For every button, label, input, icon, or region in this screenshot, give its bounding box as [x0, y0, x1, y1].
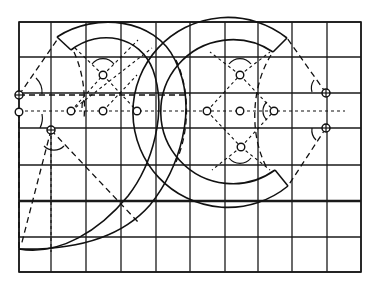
dotted-guide-diagonal	[240, 52, 270, 75]
angle-arc-mark	[92, 59, 114, 64]
letterforms	[19, 17, 288, 250]
angle-arc-mark	[44, 146, 64, 150]
dotted-guide-diagonal	[75, 48, 103, 75]
angle-arc-mark	[229, 59, 251, 64]
angle-arc-mark	[36, 78, 42, 94]
angle-arc-mark	[82, 100, 84, 108]
angle-arc-mark	[311, 80, 314, 92]
open-point-icon	[99, 71, 107, 79]
open-point-icon	[99, 107, 107, 115]
square-grid	[19, 22, 361, 272]
angle-arc-mark	[229, 158, 251, 163]
right-glyph-top-serif	[273, 38, 287, 52]
letter-construction-diagram	[0, 0, 377, 289]
dashed-guide-diagonal	[288, 128, 326, 186]
open-point-icon	[203, 107, 211, 115]
dashed-guide-diagonal	[51, 130, 138, 222]
left-glyph-top-serif	[57, 37, 71, 50]
right-glyph-bottom-serif	[275, 170, 288, 186]
open-point-icon	[15, 108, 23, 116]
open-point-icon	[236, 107, 244, 115]
dotted-guide-diagonal	[212, 147, 241, 170]
dashed-guide-diagonal	[287, 38, 326, 93]
dashed-guide-arc	[74, 52, 85, 120]
open-point-icon	[236, 71, 244, 79]
left-glyph-outer-arc	[19, 22, 186, 249]
dotted-guide-diagonal	[207, 111, 241, 147]
open-point-icon	[270, 107, 278, 115]
angle-arc-mark	[40, 114, 42, 128]
open-point-icon	[237, 143, 245, 151]
construction-guides	[19, 38, 345, 252]
open-point-icon	[133, 107, 141, 115]
angle-arc-mark	[312, 128, 316, 140]
open-point-icon	[67, 107, 75, 115]
